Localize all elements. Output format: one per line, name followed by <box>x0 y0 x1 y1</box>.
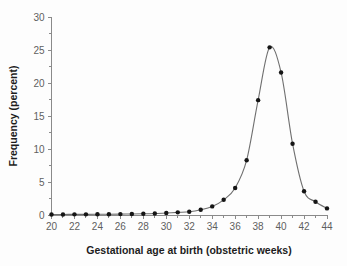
x-tick-label: 26 <box>115 221 127 232</box>
data-point-marker <box>325 206 329 210</box>
data-point-marker <box>141 212 145 216</box>
y-tick-label: 25 <box>33 45 45 56</box>
data-point-marker <box>210 204 214 208</box>
x-tick-label: 42 <box>298 221 310 232</box>
data-point-marker <box>290 142 294 146</box>
x-tick-label: 30 <box>161 221 173 232</box>
data-point-marker <box>244 158 248 162</box>
y-tick-label: 5 <box>39 177 45 188</box>
data-point-marker <box>164 211 168 215</box>
data-series-markers <box>49 45 329 217</box>
x-tick-label: 34 <box>207 221 219 232</box>
data-point-marker <box>267 45 271 49</box>
y-axis-title: Frequency (percent) <box>7 66 19 167</box>
x-tick-label: 28 <box>138 221 150 232</box>
x-tick-label: 36 <box>230 221 242 232</box>
axes-group <box>52 17 328 216</box>
y-axis-tick-labels: 051015202530 <box>33 12 45 221</box>
data-point-marker <box>49 212 53 216</box>
y-tick-label: 10 <box>33 144 45 155</box>
x-tick-label: 44 <box>321 221 333 232</box>
x-axis-tick-labels: 20222426283032343638404244 <box>46 221 333 232</box>
x-tick-label: 38 <box>253 221 265 232</box>
x-axis-title: Gestational age at birth (obstetric week… <box>86 244 291 256</box>
data-point-marker <box>199 208 203 212</box>
data-point-marker <box>84 212 88 216</box>
data-series-line <box>52 46 328 214</box>
x-tick-label: 40 <box>276 221 288 232</box>
chart-figure: 051015202530 20222426283032343638404244 … <box>0 0 347 266</box>
y-axis-ticks <box>48 17 52 215</box>
data-point-marker <box>153 211 157 215</box>
y-tick-label: 30 <box>33 12 45 23</box>
data-point-marker <box>279 70 283 74</box>
y-tick-label: 0 <box>39 210 45 221</box>
data-point-marker <box>187 210 191 214</box>
y-tick-label: 20 <box>33 78 45 89</box>
x-tick-label: 32 <box>184 221 196 232</box>
x-tick-label: 22 <box>69 221 81 232</box>
data-point-marker <box>313 200 317 204</box>
data-point-marker <box>221 198 225 202</box>
data-point-marker <box>176 210 180 214</box>
data-point-marker <box>130 212 134 216</box>
y-tick-label: 15 <box>33 111 45 122</box>
frequency-line-chart: 051015202530 20222426283032343638404244 … <box>0 0 347 266</box>
data-point-marker <box>256 98 260 102</box>
data-point-marker <box>302 189 306 193</box>
data-point-marker <box>95 212 99 216</box>
x-tick-label: 24 <box>92 221 104 232</box>
data-point-marker <box>107 212 111 216</box>
data-point-marker <box>72 212 76 216</box>
data-point-marker <box>233 186 237 190</box>
x-tick-label: 20 <box>46 221 58 232</box>
data-point-marker <box>118 212 122 216</box>
data-point-marker <box>61 212 65 216</box>
